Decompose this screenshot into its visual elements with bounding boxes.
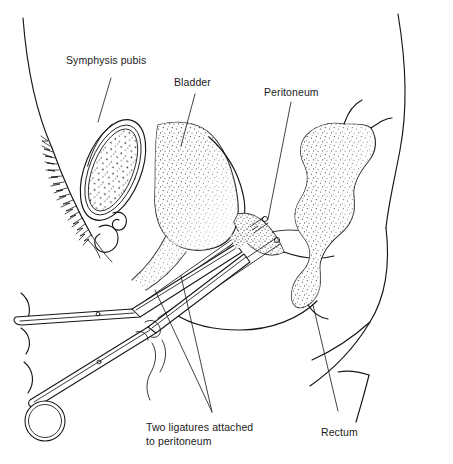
- rectum: [292, 100, 392, 319]
- label-rectum: Rectum: [321, 426, 358, 438]
- abdominal-wall-outline: [23, 18, 52, 148]
- medical-illustration-figure: Symphysis pubis Bladder Peritoneum Rectu…: [0, 0, 453, 464]
- leader-symphysis-pubis: [98, 78, 111, 122]
- perineal-folds: [21, 293, 33, 393]
- label-ligatures-line2: to peritoneum: [146, 435, 212, 447]
- label-ligatures-line1: Two ligatures attached: [146, 421, 253, 433]
- leader-peritoneum: [268, 102, 291, 219]
- bladder: [132, 122, 245, 290]
- symphysis-pubis: [67, 110, 159, 229]
- illustration-canvas: Symphysis pubis Bladder Peritoneum Rectu…: [0, 0, 453, 464]
- surgical-forceps: [14, 226, 256, 441]
- label-peritoneum: Peritoneum: [264, 86, 319, 98]
- label-symphysis-pubis: Symphysis pubis: [66, 54, 146, 66]
- right-flank-outline: [386, 14, 405, 228]
- label-bladder: Bladder: [174, 76, 211, 88]
